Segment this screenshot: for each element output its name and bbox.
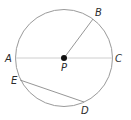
label-e: E: [11, 75, 18, 86]
label-p: P: [61, 62, 68, 73]
label-a: A: [4, 53, 12, 64]
radius-pb: [64, 19, 93, 58]
chord-ed: [20, 80, 84, 102]
circle-diagram: A B C P E D: [0, 0, 131, 120]
label-b: B: [95, 7, 102, 18]
center-point-dot: [61, 55, 67, 61]
label-d: D: [81, 105, 89, 116]
label-c: C: [115, 53, 122, 64]
